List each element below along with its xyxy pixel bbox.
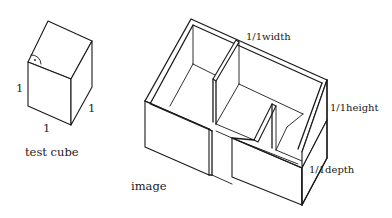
test-cube: [28, 21, 92, 125]
image-depth-label: 1/1depth: [309, 164, 355, 175]
diagram-canvas: 1 1 1 test cube: [0, 0, 392, 218]
test-cube-caption: test cube: [25, 145, 79, 159]
right-angle-dot-icon: [34, 59, 36, 61]
test-cube-height-label: 1: [16, 81, 23, 95]
partition-wall-top: [213, 40, 239, 81]
front-left-wall: [145, 101, 209, 175]
test-cube-width-label: 1: [43, 121, 50, 135]
test-cube-depth-label: 1: [88, 101, 95, 115]
image-height-label: 1/1height: [330, 102, 379, 113]
inner-rim-back: [150, 25, 322, 104]
image-width-label: 1/1width: [246, 31, 291, 42]
image-caption: image: [131, 179, 167, 193]
small-partition-top: [254, 104, 276, 142]
front-right-wall: [232, 138, 302, 205]
image-model: [145, 19, 327, 205]
